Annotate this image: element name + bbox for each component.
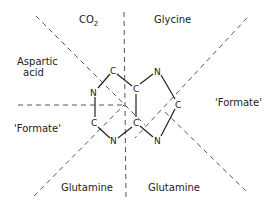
label-formate-left: 'Formate' [14,123,61,135]
label-glutamine-right: Glutamine [148,182,200,194]
divider-vertical [124,12,126,197]
atom-n3: N [110,136,117,146]
atom-c6: C [110,66,116,76]
divider-aspartic [36,16,145,125]
atom-n1: N [90,88,97,98]
atom-c5: C [133,84,139,94]
divider-formate-right [165,112,247,192]
atom-n7: N [154,67,161,77]
label-aspartic-2: acid [23,67,44,79]
label-glycine: Glycine [154,14,191,26]
divider-glycine [135,18,247,138]
label-formate-right: 'Formate' [215,97,262,109]
label-co2: CO2 [79,14,98,30]
atom-c2: C [91,118,97,128]
atom-c8: C [175,100,181,110]
atom-n9: N [154,136,161,146]
purine-origin-diagram: C N C N C C N N C CO2 Glycine Aspartic a… [0,0,277,205]
label-glutamine-left: Glutamine [61,182,113,194]
atom-c4: C [133,118,139,128]
